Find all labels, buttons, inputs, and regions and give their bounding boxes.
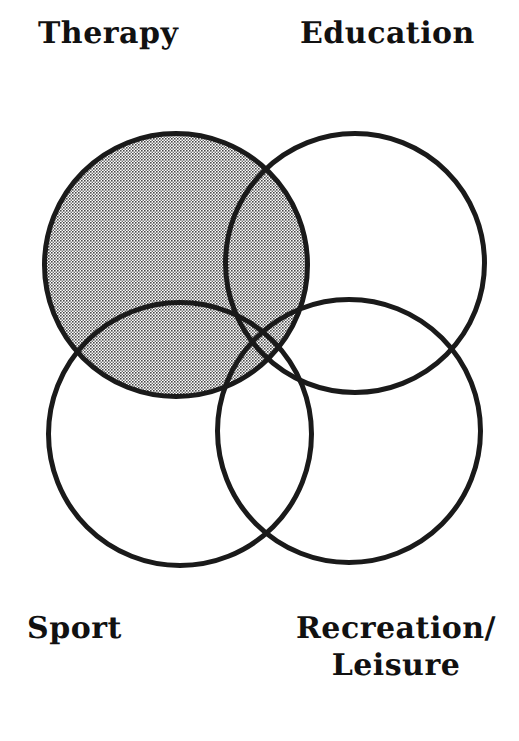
circle-label-recreation-leisure: Recreation/Leisure [292,611,500,684]
venn-diagram-figure: Therapy Education Sport Recreation/Leisu… [0,0,519,741]
circle-label-education: Education [300,16,475,53]
circle-label-sport: Sport [27,611,122,648]
recreation-label-line2: Leisure [332,648,461,683]
circle-label-therapy: Therapy [38,16,178,53]
recreation-label-line1: Recreation/ [296,611,496,646]
venn-circle-recreation [218,300,481,563]
